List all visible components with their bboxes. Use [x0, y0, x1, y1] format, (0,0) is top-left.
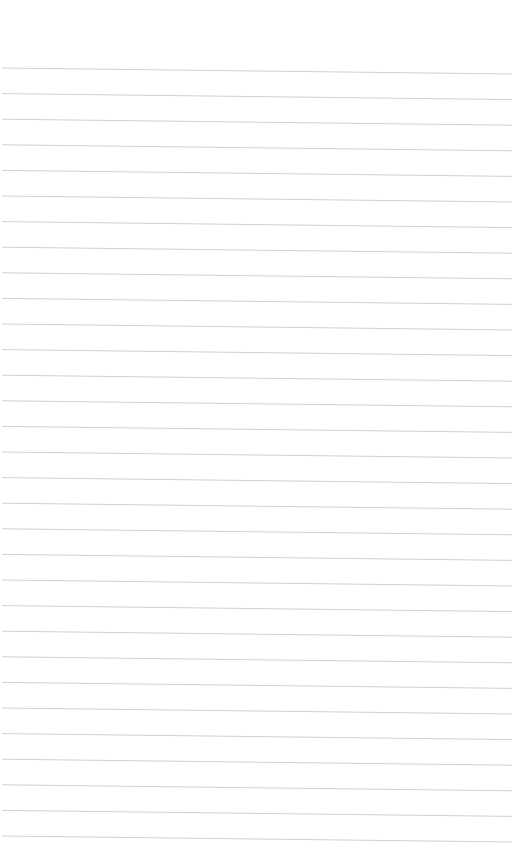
ruled-line — [2, 247, 512, 253]
ruled-line — [2, 222, 512, 228]
ruled-line — [2, 606, 512, 612]
ruled-line — [2, 657, 512, 663]
ruled-line — [2, 94, 512, 100]
ruled-lines — [0, 0, 515, 865]
ruled-line — [2, 68, 512, 74]
ruled-line — [2, 426, 512, 432]
ruled-line — [2, 350, 512, 356]
ruled-line — [2, 503, 512, 509]
ruled-line — [2, 119, 512, 125]
ruled-line — [2, 759, 512, 765]
lined-paper-page — [0, 0, 515, 865]
ruled-line — [2, 298, 512, 304]
ruled-line — [2, 682, 512, 688]
ruled-line — [2, 631, 512, 637]
ruled-line — [2, 452, 512, 458]
ruled-line — [2, 145, 512, 151]
ruled-line — [2, 375, 512, 381]
ruled-line — [2, 273, 512, 279]
ruled-line — [2, 478, 512, 484]
ruled-line — [2, 580, 512, 586]
ruled-line — [2, 529, 512, 535]
ruled-line — [2, 785, 512, 791]
ruled-line — [2, 708, 512, 714]
ruled-line — [2, 196, 512, 202]
ruled-line — [2, 554, 512, 560]
ruled-line — [2, 734, 512, 740]
ruled-line — [2, 170, 512, 176]
ruled-line — [2, 401, 512, 407]
ruled-line — [2, 836, 512, 842]
ruled-line — [2, 324, 512, 330]
ruled-line — [2, 810, 512, 816]
